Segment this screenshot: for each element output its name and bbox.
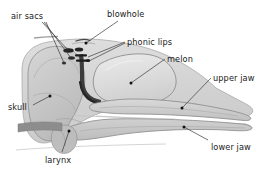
phonic-lip-lower (76, 60, 87, 62)
air-sac-right (75, 48, 83, 52)
label-air-sacs: air sacs (11, 11, 43, 21)
ventral-line (16, 144, 166, 150)
label-phonic-lips: phonic lips (127, 37, 172, 47)
phonic-lip-upper (75, 54, 87, 56)
melon-group (93, 54, 176, 105)
melon-shape (93, 54, 176, 105)
dot-upper-jaw (181, 107, 184, 110)
dot-skull (49, 95, 52, 98)
air-sac-small (62, 62, 66, 65)
label-blowhole: blowhole (107, 9, 145, 19)
air-sac-lower (68, 56, 75, 59)
dot-blowhole (85, 42, 88, 45)
diagram-canvas: air sacs blowhole phonic lips melon uppe… (0, 0, 266, 173)
dot-melon (130, 82, 133, 85)
label-skull: skull (8, 102, 27, 112)
lower-jaw-group (67, 119, 252, 140)
dot-larynx (68, 130, 71, 133)
label-upper-jaw: upper jaw (213, 73, 255, 83)
anatomy-diagram-figure: air sacs blowhole phonic lips melon uppe… (0, 0, 266, 173)
dorsal-line (34, 37, 58, 39)
label-larynx: larynx (45, 155, 71, 165)
label-lower-jaw: lower jaw (211, 142, 251, 152)
dot-lower-jaw (183, 126, 186, 129)
air-sac-left (63, 48, 73, 52)
label-melon: melon (167, 54, 193, 64)
